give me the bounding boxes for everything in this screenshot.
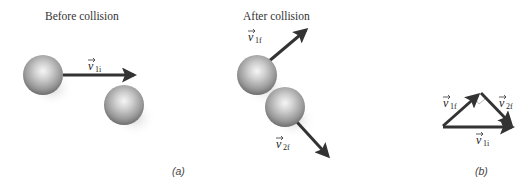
sphere-2-after <box>265 87 305 127</box>
before-collision-title: Before collision <box>45 10 119 22</box>
svg-text:v: v <box>443 96 449 110</box>
label-b-v1f: v 1f <box>443 95 457 111</box>
panel-label-b: (b) <box>475 165 488 177</box>
svg-text:v: v <box>88 59 94 73</box>
svg-text:v: v <box>476 133 482 147</box>
svg-text:v: v <box>499 96 505 110</box>
svg-text:1i: 1i <box>483 139 490 148</box>
before-collision-group: Before collision v 1i <box>23 10 156 136</box>
svg-text:1i: 1i <box>95 65 102 74</box>
label-b-v1i: v 1i <box>476 132 490 148</box>
svg-text:v: v <box>276 137 282 151</box>
svg-text:2f: 2f <box>506 102 513 111</box>
svg-text:v: v <box>248 30 254 44</box>
panel-label-a: (a) <box>172 165 185 177</box>
after-collision-title: After collision <box>243 10 310 22</box>
label-v2f: v 2f <box>276 136 290 152</box>
label-v1i: v 1i <box>88 58 102 74</box>
sphere-2-before <box>104 85 144 125</box>
sphere-1-before <box>23 55 63 95</box>
svg-text:1f: 1f <box>450 102 457 111</box>
after-collision-group: After collision v 1f v 2f (a) <box>172 10 328 177</box>
label-b-v2f: v 2f <box>499 95 513 111</box>
vector-triangle-group: v 1f v 2f v 1i (b) <box>443 93 513 177</box>
svg-text:2f: 2f <box>283 143 290 152</box>
svg-text:1f: 1f <box>255 36 262 45</box>
velocity-arrow-v1f <box>268 30 306 62</box>
label-v1f: v 1f <box>248 29 262 45</box>
collision-diagram: Before collision v 1i After collision v … <box>0 0 528 190</box>
right-angle-marker <box>475 99 485 104</box>
sphere-1-after <box>237 55 277 95</box>
